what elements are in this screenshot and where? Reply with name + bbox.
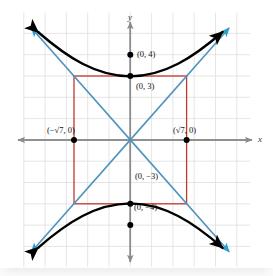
page-bottom-band <box>0 268 273 276</box>
label-focus-bottom: (0, −4) <box>134 203 157 212</box>
label-covertex-right: (√7, 0) <box>173 126 196 135</box>
point-focus-top <box>127 52 133 58</box>
label-focus-top: (0, 4) <box>137 50 155 59</box>
label-vertex-top: (0, 3) <box>136 82 154 91</box>
y-axis-label: y <box>128 13 132 22</box>
label-covertex-left: (−√7, 0) <box>47 126 75 135</box>
hyperbola-figure: (0, 4) (0, 3) (0, −3) (0, −4) (−√7, 0) (… <box>0 0 273 276</box>
point-covertex-left <box>71 137 77 143</box>
label-vertex-bottom: (0, −3) <box>135 172 158 181</box>
point-covertex-right <box>184 137 190 143</box>
point-vertex-top <box>127 73 133 79</box>
plot-background <box>0 0 273 276</box>
point-focus-bottom <box>127 222 133 228</box>
x-axis-label: x <box>258 135 262 144</box>
point-vertex-bottom <box>127 201 133 207</box>
hyperbola-plot <box>0 0 273 276</box>
